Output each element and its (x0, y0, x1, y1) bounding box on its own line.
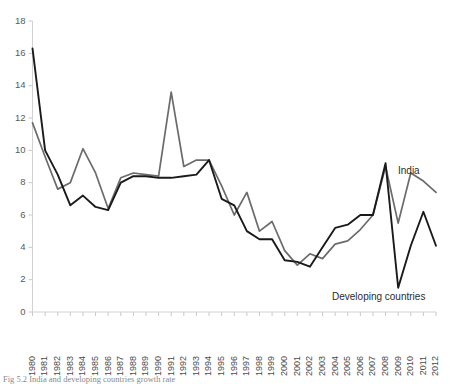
figure-caption: Fig 5.2 India and developing countries g… (3, 374, 447, 384)
y-tick-label: 8 (20, 176, 25, 187)
y-tick-label: 4 (20, 241, 25, 252)
y-tick-label: 14 (15, 79, 26, 90)
series-annotation-india: India (398, 165, 420, 176)
y-tick-label: 0 (20, 306, 25, 317)
y-tick-label: 12 (15, 112, 26, 123)
series-annotations: IndiaDeveloping countries (332, 165, 425, 302)
y-tick-label: 18 (15, 15, 26, 26)
y-tick-label: 6 (20, 209, 25, 220)
x-axis-ticks: 1980198119821983198419851986198719881989… (27, 312, 441, 376)
series-annotation-developing-countries: Developing countries (332, 291, 425, 302)
y-tick-label: 2 (20, 273, 25, 284)
x-tick-label: 2011 (418, 356, 428, 375)
y-tick-label: 16 (15, 47, 26, 58)
series-line-india (33, 92, 437, 265)
y-tick-label: 10 (15, 144, 26, 155)
y-axis-ticks: 024681012141618 (15, 15, 33, 317)
data-series-group (33, 48, 437, 287)
